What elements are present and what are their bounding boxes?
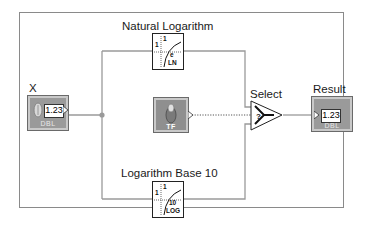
x-label: X bbox=[29, 82, 37, 94]
ln-top: 1 bbox=[163, 35, 167, 42]
ln-mid: e bbox=[170, 51, 174, 58]
natural-log-node[interactable]: 1 1 e LN bbox=[152, 33, 184, 70]
select-question-icon: ? bbox=[256, 112, 261, 121]
toggle-switch-icon bbox=[164, 102, 178, 124]
select-label: Select bbox=[250, 88, 282, 100]
log-base-10-node[interactable]: 1 1 10 LOG bbox=[152, 181, 184, 218]
wire-junction bbox=[99, 112, 104, 117]
wire-log-to-select[interactable] bbox=[183, 124, 251, 199]
log-top: 1 bbox=[163, 183, 167, 190]
x-value: 1.23 bbox=[44, 104, 64, 118]
output-terminal-icon bbox=[63, 106, 68, 114]
tf-boolean-control[interactable]: TF bbox=[153, 97, 189, 133]
output-terminal-icon bbox=[188, 111, 193, 119]
log-bottom: LOG bbox=[166, 207, 180, 214]
log-left: 1 bbox=[155, 189, 159, 196]
result-value: 1.23 bbox=[321, 109, 341, 123]
ln-bottom: LN bbox=[168, 59, 177, 66]
x-datatype: DBL bbox=[28, 120, 68, 127]
wire-ln-to-select[interactable] bbox=[183, 51, 251, 107]
x-numeric-control[interactable]: 1.23 DBL bbox=[27, 95, 69, 131]
result-label: Result bbox=[313, 83, 346, 95]
input-terminal-icon bbox=[314, 111, 319, 119]
log-mid: 10 bbox=[169, 199, 176, 206]
log-base-10-label: Logarithm Base 10 bbox=[121, 167, 218, 179]
tf-datatype: TF bbox=[154, 123, 188, 130]
natural-log-label: Natural Logarithm bbox=[122, 20, 213, 32]
increment-arrows-icon bbox=[33, 102, 43, 118]
result-indicator[interactable]: 1.23 DBL bbox=[311, 96, 353, 132]
ln-left: 1 bbox=[155, 41, 159, 48]
result-datatype: DBL bbox=[312, 122, 352, 129]
select-node[interactable]: ? bbox=[250, 100, 284, 132]
